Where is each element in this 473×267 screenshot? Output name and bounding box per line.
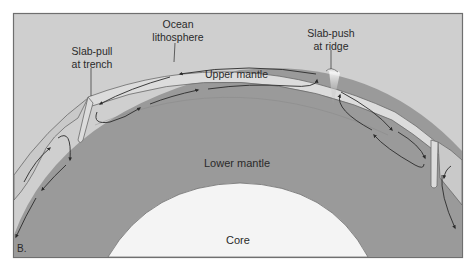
subducting-slab-right xyxy=(431,140,438,188)
slab-push-label: Slab-push at ridge xyxy=(300,27,362,53)
slab-pull-label-line2: at trench xyxy=(62,58,122,71)
lower-mantle-label: Lower mantle xyxy=(204,157,270,170)
mantle-convection-diagram xyxy=(0,0,473,267)
slab-pull-label: Slab-pull at trench xyxy=(62,45,122,71)
ocean-lithosphere-label-line1: Ocean xyxy=(148,18,208,31)
ocean-lithosphere-label-line2: lithosphere xyxy=(148,31,208,44)
upper-mantle-label: Upper mantle xyxy=(205,68,268,81)
slab-push-label-line2: at ridge xyxy=(300,40,362,53)
slab-push-label-line1: Slab-push xyxy=(300,27,362,40)
core-label: Core xyxy=(226,234,250,247)
ocean-lithosphere-label: Ocean lithosphere xyxy=(148,18,208,44)
panel-label: B. xyxy=(17,242,26,255)
slab-pull-label-line1: Slab-pull xyxy=(62,45,122,58)
